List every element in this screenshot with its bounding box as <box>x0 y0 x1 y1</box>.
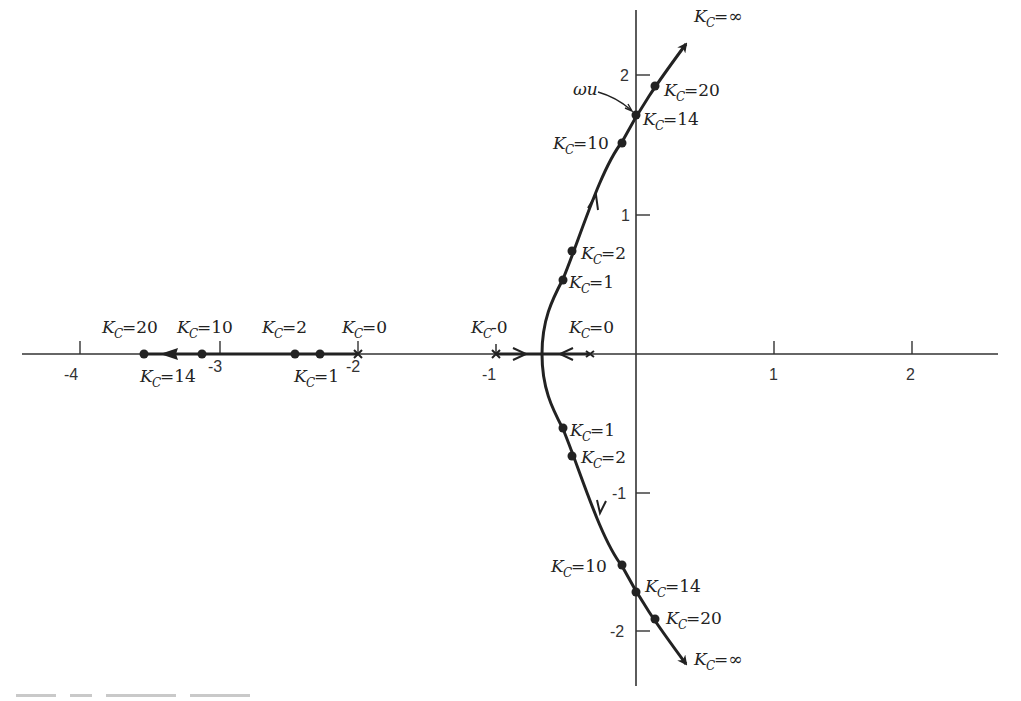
svg-text:=10: =10 <box>573 133 609 153</box>
svg-text:=10: =10 <box>197 317 233 337</box>
label-kc20-upper: KC =20 <box>663 80 720 104</box>
label-kc10-upper: KC =10 <box>552 133 609 157</box>
y-tick-label-m2: -2 <box>610 623 624 640</box>
svg-text:=20: =20 <box>686 608 722 628</box>
x-tick-label-m1: -1 <box>482 366 496 383</box>
label-kc10-lower: KC =10 <box>550 556 607 580</box>
svg-text:=∞: =∞ <box>714 649 742 669</box>
x-tick-label-2: 2 <box>906 366 915 383</box>
label-kc14-real: KC =14 <box>139 366 196 390</box>
label-kc20-real: KC =20 <box>101 317 158 341</box>
arrow-left-icon <box>160 348 178 360</box>
svg-text:=14: =14 <box>663 109 699 129</box>
label-kc20-lower: KC =20 <box>665 608 722 632</box>
svg-text:=1: =1 <box>590 420 615 440</box>
svg-text:-0: -0 <box>491 317 508 337</box>
label-kc1-lower: KC =1 <box>569 420 615 444</box>
svg-text:=20: =20 <box>122 317 158 337</box>
y-tick-label-m1: -1 <box>612 485 626 502</box>
y-ticks <box>636 75 650 631</box>
x-tick-label-m2: -2 <box>346 358 360 375</box>
svg-text:=∞: =∞ <box>714 6 742 26</box>
x-tick-label-1: 1 <box>769 366 778 383</box>
label-kc0-mid: KC -0 <box>470 317 508 341</box>
svg-text:=20: =20 <box>684 80 720 100</box>
locus-lower-branch <box>542 354 686 664</box>
label-kc1-upper: KC =1 <box>568 272 614 296</box>
label-kc2-real: KC =2 <box>261 317 307 341</box>
clipped-caption <box>16 694 266 701</box>
y-tick-label-1: 1 <box>621 207 630 224</box>
label-kc0-right: KC =0 <box>568 317 614 341</box>
label-kc-inf-upper: KC =∞ <box>693 6 742 30</box>
svg-text:=0: =0 <box>362 317 387 337</box>
label-kc0-left: KC =0 <box>341 317 387 341</box>
svg-text:=1: =1 <box>314 366 339 386</box>
root-locus-plot: -4 -3 -2 -1 1 2 2 1 -1 -2 <box>0 0 1021 701</box>
x-tick-label-m4: -4 <box>64 366 78 383</box>
label-kc1-real: KC =1 <box>293 366 339 390</box>
svg-text:=10: =10 <box>571 556 607 576</box>
label-kc14-lower: KC =14 <box>644 576 701 600</box>
svg-text:=14: =14 <box>160 366 196 386</box>
svg-text:=2: =2 <box>282 317 307 337</box>
svg-text:=14: =14 <box>665 576 701 596</box>
label-kc-inf-lower: KC =∞ <box>693 649 742 673</box>
svg-text:=2: =2 <box>601 243 626 263</box>
svg-text:=0: =0 <box>589 317 614 337</box>
svg-text:=1: =1 <box>589 272 614 292</box>
omega-u-label: ωu <box>573 79 598 99</box>
svg-text:=2: =2 <box>601 447 626 467</box>
label-kc14-upper: KC =14 <box>642 109 699 133</box>
label-kc2-lower: KC =2 <box>580 447 626 471</box>
omega-u-arrow-icon <box>598 92 631 110</box>
y-tick-label-2: 2 <box>620 67 629 84</box>
label-kc2-upper: KC =2 <box>580 243 626 267</box>
arrow-down-icon <box>597 500 606 513</box>
x-tick-label-m3: -3 <box>208 358 222 375</box>
label-kc10-real: KC =10 <box>176 317 233 341</box>
